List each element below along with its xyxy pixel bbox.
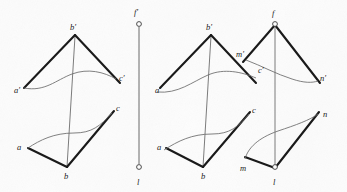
edge-a-prime-b-prime-right: [160, 35, 211, 88]
right-upper-curve-mfn: [246, 60, 318, 82]
edge-a-b-right: [166, 148, 203, 167]
label-c-left: c: [116, 104, 120, 113]
point-l-marker-right: [273, 165, 278, 170]
label-m-right: m: [240, 164, 246, 173]
drawing-page: b′ a′ c′ a b c f′ l b′ a′ c′ m′ f n′ a b…: [0, 0, 347, 192]
right-upper-triangle-mfn: [243, 25, 320, 83]
label-f-right: f: [272, 9, 274, 18]
label-a-prime-left: a′: [14, 86, 20, 95]
right-lower-curve-abc: [164, 114, 249, 150]
label-f-prime-left: f′: [134, 8, 138, 17]
edge-a-b: [28, 148, 67, 167]
geometry-drawing: [0, 0, 347, 192]
edge-a-prime-b-prime: [24, 35, 75, 88]
label-b-right: b: [201, 172, 205, 181]
left-diagram: [24, 22, 141, 170]
label-b-prime-left: b′: [70, 23, 76, 32]
left-lower-triangle: [28, 111, 114, 167]
point-l-marker: [137, 165, 142, 170]
label-n-prime-right: n′: [320, 74, 326, 83]
label-a-right: a: [157, 143, 161, 152]
edge-b-prime-c-prime: [75, 35, 120, 83]
left-projection-verticals: [67, 36, 75, 167]
label-a-prime-right: a′: [155, 86, 161, 95]
label-a-left: a: [17, 143, 21, 152]
edge-l-n: [275, 112, 319, 168]
label-b-left: b: [64, 172, 68, 181]
right-lower-curve-mln: [245, 114, 318, 159]
edge-b-c: [67, 111, 114, 167]
point-f-prime-marker: [137, 22, 142, 27]
edge-m-prime-f: [243, 25, 275, 62]
right-lower-triangle-abc: [166, 112, 250, 167]
right-lower-triangle-mln: [245, 112, 319, 168]
vertical-line-b-right: [203, 36, 211, 167]
edge-m-l: [245, 157, 275, 168]
label-n-right: n: [323, 110, 327, 119]
label-l-right: l: [273, 178, 275, 187]
label-c-prime-left: c′: [119, 74, 125, 83]
vertical-line-b: [67, 36, 75, 167]
label-c-right: c: [252, 106, 256, 115]
label-l-left: l: [137, 178, 139, 187]
edge-f-n-prime: [275, 25, 320, 83]
right-projection-verticals: [203, 27, 275, 167]
label-b-prime-right: b′: [206, 23, 212, 32]
label-m-prime-right: m′: [236, 50, 244, 59]
point-f-marker: [273, 22, 278, 27]
right-diagram: [157, 22, 320, 170]
label-c-prime-right: c′: [258, 66, 264, 75]
